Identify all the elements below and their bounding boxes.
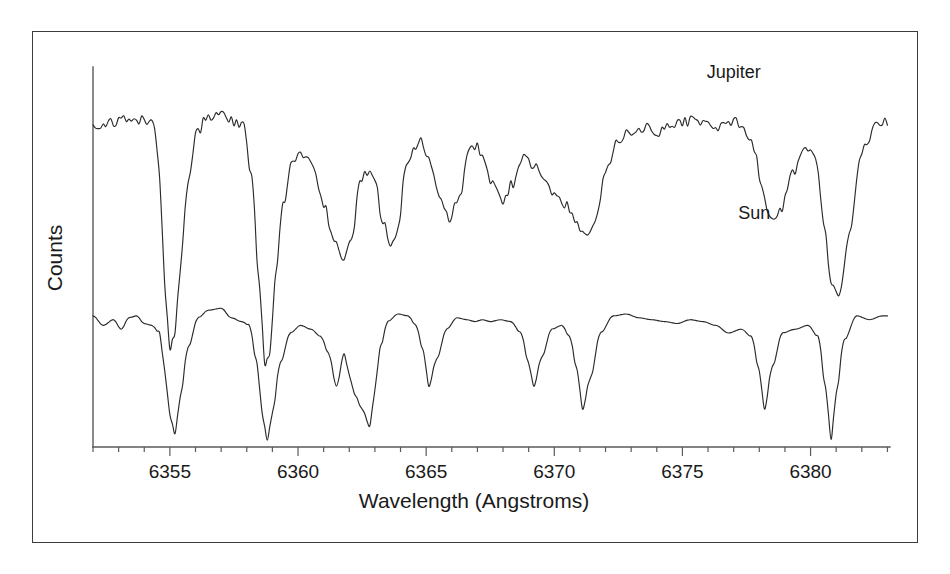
spectrum-trace-sun	[93, 308, 887, 440]
x-tick-label: 6365	[405, 461, 447, 482]
spectrum-traces	[93, 111, 887, 440]
x-axis-tick-marks	[93, 447, 887, 456]
spectrum-trace-jupiter	[93, 111, 887, 366]
trace-label-sun: Sun	[738, 203, 770, 223]
trace-label-jupiter: Jupiter	[707, 62, 761, 82]
x-axis-title: Wavelength (Angstroms)	[359, 489, 589, 512]
x-tick-label: 6375	[661, 461, 703, 482]
y-axis-title: Counts	[43, 225, 66, 292]
spectrum-figure: 635563606365637063756380 JupiterSun Wave…	[0, 0, 950, 574]
spectrum-plot: 635563606365637063756380 JupiterSun Wave…	[0, 0, 950, 574]
trace-labels: JupiterSun	[707, 62, 771, 223]
x-tick-label: 6380	[789, 461, 831, 482]
axis-group	[93, 67, 890, 456]
x-tick-label: 6355	[149, 461, 191, 482]
x-axis-tick-labels: 635563606365637063756380	[149, 461, 832, 482]
x-tick-label: 6360	[277, 461, 319, 482]
x-tick-label: 6370	[533, 461, 575, 482]
